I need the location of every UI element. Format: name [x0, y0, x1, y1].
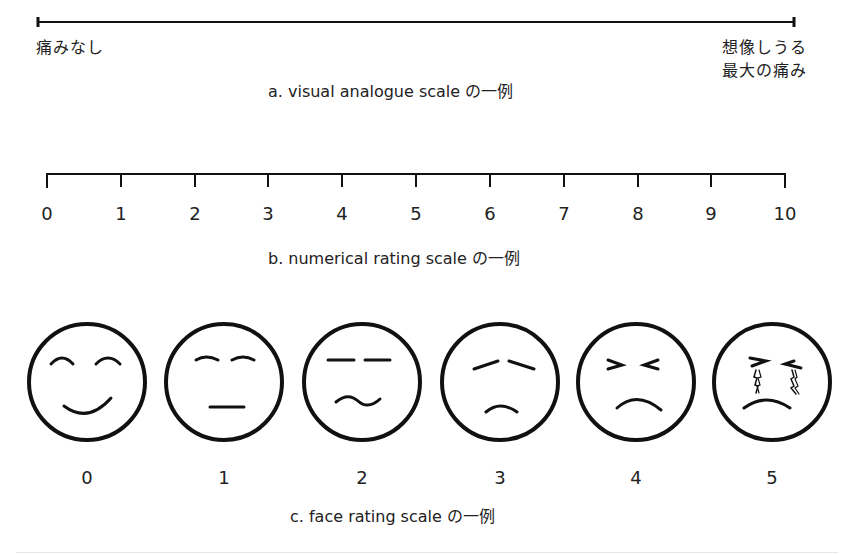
vas-caption: a. visual analogue scale の一例 — [268, 82, 568, 102]
nrs-tick-label: 6 — [470, 203, 510, 224]
frs-score-label: 5 — [752, 467, 792, 488]
vas-right-label-line2: 最大の痛み — [722, 60, 807, 82]
nrs-tick-label: 10 — [765, 203, 805, 224]
nrs-tick-label: 7 — [544, 203, 584, 224]
vas-right-label-line1: 想像しうる — [722, 37, 807, 59]
frs-score-label: 1 — [204, 467, 244, 488]
nrs-tick-label: 0 — [27, 203, 67, 224]
frs-score-label: 0 — [67, 467, 107, 488]
frs-score-label: 4 — [616, 467, 656, 488]
bottom-divider — [16, 552, 838, 553]
nrs-ruler — [47, 173, 785, 188]
nrs-tick-label: 3 — [248, 203, 288, 224]
face-1-neutral — [166, 324, 282, 440]
face-3-sad — [442, 324, 558, 440]
frs-score-label: 3 — [480, 467, 520, 488]
nrs-tick-label: 9 — [691, 203, 731, 224]
nrs-tick-label: 1 — [101, 203, 141, 224]
face-2-uneasy — [304, 324, 420, 440]
nrs-tick-label: 8 — [618, 203, 658, 224]
vas-line — [38, 17, 794, 27]
frs-score-label: 2 — [342, 467, 382, 488]
face-5-crying — [714, 324, 830, 440]
nrs-tick-label: 5 — [396, 203, 436, 224]
face-4-grimacing — [578, 324, 694, 440]
face-0-smiling — [29, 324, 145, 440]
nrs-tick-label: 2 — [175, 203, 215, 224]
nrs-caption: b. numerical rating scale の一例 — [268, 249, 598, 269]
vas-left-label: 痛みなし — [36, 37, 104, 59]
frs-caption: c. face rating scale の一例 — [290, 507, 590, 527]
nrs-tick-label: 4 — [322, 203, 362, 224]
